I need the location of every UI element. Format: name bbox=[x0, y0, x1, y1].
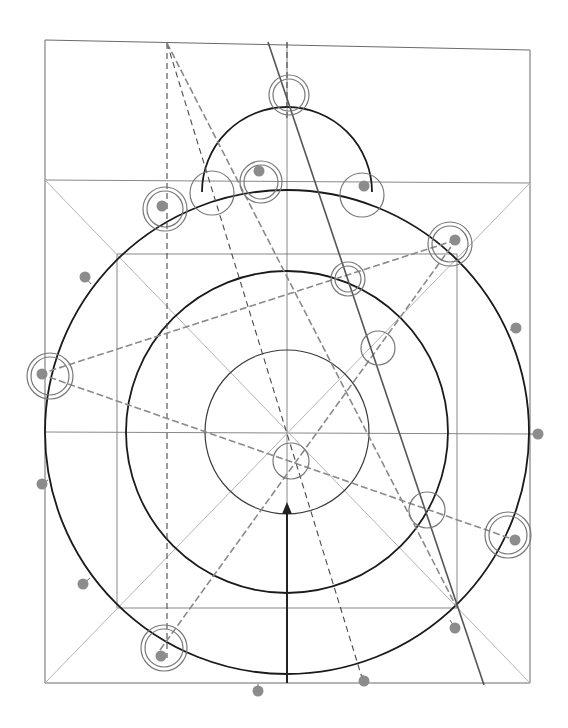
ring-top-right-single-dot bbox=[359, 181, 370, 192]
ring-top-left-single-circle-0 bbox=[190, 171, 234, 215]
dot-left-lower-marker bbox=[78, 579, 89, 590]
ring-left-dot bbox=[37, 369, 48, 380]
ring-lower-left-circle-0 bbox=[141, 625, 187, 671]
slanted-ray bbox=[268, 42, 484, 685]
dot-right-lower bbox=[450, 620, 461, 634]
dashed-line-grey-0 bbox=[167, 43, 457, 608]
upper-band-line bbox=[45, 180, 530, 183]
ring-top-right-single-circle-0 bbox=[340, 173, 384, 217]
arrow-head-icon bbox=[282, 502, 292, 514]
marker-dots bbox=[37, 272, 544, 697]
dashed-line-grey-3 bbox=[160, 240, 456, 650]
ring-lower-left-dot bbox=[156, 651, 167, 662]
dot-bottom-left bbox=[253, 684, 264, 697]
ring-upper-left-dot bbox=[157, 201, 168, 212]
dot-left-lower bbox=[78, 578, 91, 590]
ring-right-upper-dot bbox=[450, 235, 461, 246]
dashed-construction-lines bbox=[40, 42, 515, 681]
dot-right-upper-marker bbox=[511, 323, 522, 334]
ring-top-center bbox=[240, 161, 282, 203]
ring-left-circle-0 bbox=[27, 353, 73, 399]
dot-bottom-left-marker bbox=[253, 686, 264, 697]
ring-top-center-dot bbox=[254, 166, 265, 177]
dot-right-upper bbox=[510, 323, 522, 334]
dot-left-upper-marker bbox=[80, 272, 91, 283]
ring-top-circle-0 bbox=[269, 75, 309, 115]
ring-right-upper-circle-1 bbox=[432, 226, 468, 262]
ring-right-lower bbox=[485, 512, 531, 558]
dot-right-lower-marker bbox=[450, 623, 461, 634]
dot-left-upper bbox=[80, 272, 92, 285]
ring-right-lower-circle-1 bbox=[489, 516, 527, 554]
dot-bottom-right bbox=[359, 675, 370, 687]
ring-left bbox=[27, 353, 73, 399]
ring-top bbox=[269, 75, 309, 115]
solid-slanted-ray bbox=[268, 42, 484, 685]
ring-top-right-single bbox=[340, 173, 384, 217]
dot-bottom-right-marker bbox=[359, 676, 370, 687]
marker-rings bbox=[27, 75, 531, 671]
ring-right-lower-circle-0 bbox=[485, 512, 531, 558]
dot-left-mid bbox=[37, 479, 49, 490]
geometric-construction-diagram bbox=[0, 0, 568, 728]
ring-upper-left bbox=[143, 187, 187, 231]
ring-top-left-single bbox=[190, 171, 234, 215]
ring-left-circle-1 bbox=[31, 357, 69, 395]
dot-right-mid bbox=[530, 429, 544, 440]
dot-left-mid-marker bbox=[37, 479, 48, 490]
ring-right-upper bbox=[428, 222, 472, 266]
ring-right-upper-circle-0 bbox=[428, 222, 472, 266]
ring-right-lower-dot bbox=[510, 535, 521, 546]
ring-lower-left bbox=[141, 625, 187, 671]
dot-right-mid-marker bbox=[533, 429, 544, 440]
